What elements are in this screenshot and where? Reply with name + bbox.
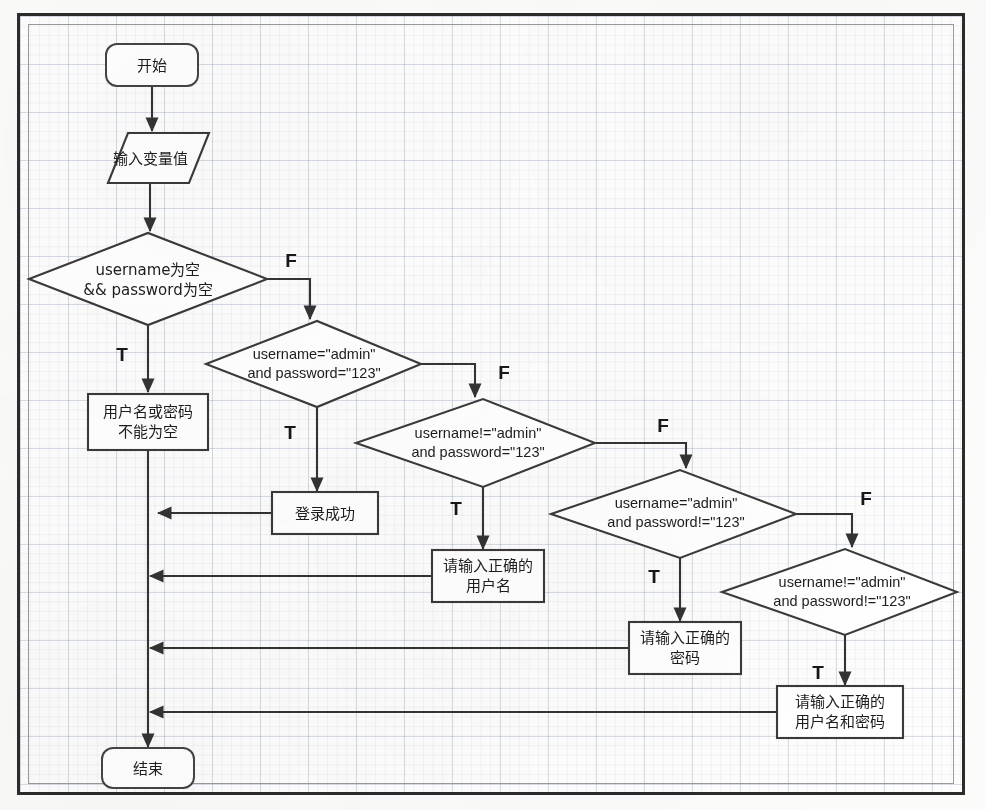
branch-label-d2-true: T: [284, 422, 296, 443]
edge-d2-d3: [421, 364, 475, 397]
branch-label-d2-false: F: [498, 362, 510, 383]
node-decision-4[interactable]: username="admin" and password!="123": [551, 470, 796, 558]
node-decision-1-line-1: username为空: [96, 261, 201, 279]
branch-label-d1-false: F: [285, 250, 297, 271]
node-process-empty-credentials[interactable]: 用户名或密码 不能为空: [88, 394, 208, 450]
node-decision-5-line-1: username!="admin": [779, 574, 906, 590]
flowchart-canvas: 开始 输入变量值 username为空 && password为空 userna…: [0, 0, 986, 810]
node-decision-1-line-2: && password为空: [83, 281, 212, 299]
node-process-1-line-1: 用户名或密码: [103, 403, 193, 421]
node-decision-5-line-2: and password!="123": [773, 593, 910, 609]
edge-d1-d2: [267, 279, 310, 319]
node-process-wrong-username[interactable]: 请输入正确的 用户名: [432, 550, 544, 602]
node-process-4-line-2: 密码: [670, 649, 700, 667]
node-process-wrong-both[interactable]: 请输入正确的 用户名和密码: [777, 686, 903, 738]
branch-label-d5-true: T: [812, 662, 824, 683]
node-process-5-line-1: 请输入正确的: [795, 693, 885, 711]
node-process-3-line-2: 用户名: [466, 577, 511, 595]
node-end-label: 结束: [133, 760, 163, 778]
node-process-wrong-password[interactable]: 请输入正确的 密码: [629, 622, 741, 674]
node-process-4-line-1: 请输入正确的: [640, 629, 730, 647]
branch-label-d4-true: T: [648, 566, 660, 587]
node-process-3-line-1: 请输入正确的: [443, 557, 533, 575]
node-input-label: 输入变量值: [113, 150, 188, 168]
edge-d3-d4: [595, 443, 686, 468]
branch-label-d1-true: T: [116, 344, 128, 365]
node-process-2-label: 登录成功: [295, 505, 355, 523]
node-decision-4-line-2: and password!="123": [607, 514, 744, 530]
node-process-5-line-2: 用户名和密码: [795, 713, 885, 731]
node-decision-2[interactable]: username="admin" and password="123": [206, 321, 421, 407]
branch-label-d3-true: T: [450, 498, 462, 519]
node-decision-3-line-2: and password="123": [411, 444, 544, 460]
branch-label-d3-false: F: [657, 415, 669, 436]
node-decision-5[interactable]: username!="admin" and password!="123": [722, 549, 957, 635]
node-start[interactable]: 开始: [106, 44, 198, 86]
flowchart-page: 开始 输入变量值 username为空 && password为空 userna…: [0, 0, 986, 810]
node-input[interactable]: 输入变量值: [108, 133, 209, 183]
node-decision-3-line-1: username!="admin": [415, 425, 542, 441]
node-process-login-success[interactable]: 登录成功: [272, 492, 378, 534]
node-decision-3[interactable]: username!="admin" and password="123": [356, 399, 595, 487]
node-decision-4-line-1: username="admin": [615, 495, 738, 511]
node-decision-2-line-2: and password="123": [247, 365, 380, 381]
node-decision-2-line-1: username="admin": [253, 346, 376, 362]
edge-d4-d5: [796, 514, 852, 547]
node-process-1-line-2: 不能为空: [118, 423, 178, 441]
node-decision-1[interactable]: username为空 && password为空: [29, 233, 267, 325]
branch-label-d4-false: F: [860, 488, 872, 509]
node-start-label: 开始: [137, 57, 167, 75]
node-end[interactable]: 结束: [102, 748, 194, 788]
